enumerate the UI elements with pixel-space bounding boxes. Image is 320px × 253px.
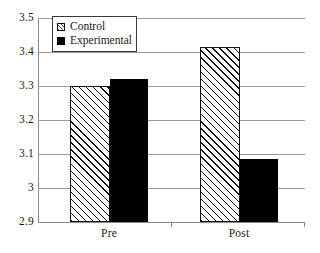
legend-item-control: Control [57,20,132,34]
y-axis-labels: 3.5 3.4 3.3 3.2 3.1 3 2.9 [0,0,34,253]
legend-item-experimental: Experimental [57,34,132,48]
y-axis-tick-label: 3 [0,182,34,194]
legend-label-experimental: Experimental [70,35,132,47]
bar-post-experimental [240,159,278,222]
y-axis-tick-label: 2.9 [0,216,34,228]
chart-legend: Control Experimental [52,16,137,52]
bar-post-control [200,47,240,222]
x-axis-group-tick [171,222,172,227]
y-axis-tick-label: 3.1 [0,148,34,160]
x-axis-tick-label-post: Post [229,228,250,240]
legend-label-control: Control [70,21,105,33]
bar-pre-experimental [110,79,148,222]
x-axis-tick-label-pre: Pre [101,228,117,240]
hatch-swatch-icon [57,23,65,31]
solid-swatch-icon [57,37,65,45]
bar-pre-control [70,86,110,222]
y-axis-tick-label: 3.4 [0,46,34,58]
gridline [38,52,305,53]
y-axis-tick-label: 3.2 [0,114,34,126]
y-axis-tick-label: 3.5 [0,12,34,24]
y-axis-tick-label: 3.3 [0,80,34,92]
bar-chart: 3.5 3.4 3.3 3.2 3.1 3 2.9 Pre Post Contr [0,0,320,253]
x-axis-end-tick [304,222,305,227]
